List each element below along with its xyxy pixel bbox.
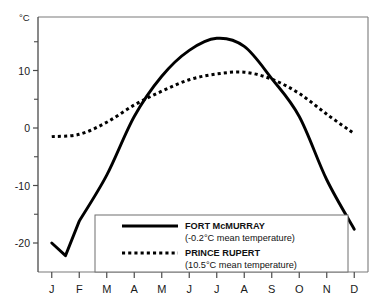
temperature-chart: °C 10 0 -10 -20: [0, 0, 385, 302]
y-tick-label-10: 10: [18, 65, 30, 77]
series-line-prince-rupert: [52, 72, 355, 137]
x-tick-label-oct: O: [295, 283, 304, 295]
x-tick-label-may: M: [157, 283, 166, 295]
legend-label-prince-rupert: PRINCE RUPERT: [185, 248, 260, 258]
y-tick-label-minus10: -10: [15, 180, 30, 192]
x-axis-labels: J F M A M J J A S O N D: [49, 283, 358, 295]
x-tick-label-jun: J: [187, 283, 193, 295]
x-tick-label-sep: S: [268, 283, 275, 295]
legend-sub-fort-mcmurray: (-0.2°C mean temperature): [185, 233, 295, 243]
x-tick-label-dec: D: [350, 283, 358, 295]
y-axis-unit-label: °C: [19, 12, 30, 23]
x-tick-label-aug: A: [241, 283, 249, 295]
x-tick-label-jul: J: [214, 283, 220, 295]
chart-canvas: °C 10 0 -10 -20: [0, 0, 385, 302]
x-axis-ticks: [52, 272, 355, 278]
legend-label-fort-mcmurray: FORT McMURRAY: [185, 221, 265, 231]
x-tick-label-mar: M: [102, 283, 111, 295]
y-tick-label-minus20: -20: [15, 237, 30, 249]
x-tick-label-apr: A: [131, 283, 139, 295]
legend-sub-prince-rupert: (10.5°C mean temperature): [185, 260, 297, 270]
chart-legend: FORT McMURRAY (-0.2°C mean temperature) …: [95, 215, 348, 272]
y-tick-label-0: 0: [24, 122, 30, 134]
x-tick-label-feb: F: [76, 283, 83, 295]
x-tick-label-nov: N: [323, 283, 331, 295]
x-tick-label-jan: J: [49, 283, 55, 295]
